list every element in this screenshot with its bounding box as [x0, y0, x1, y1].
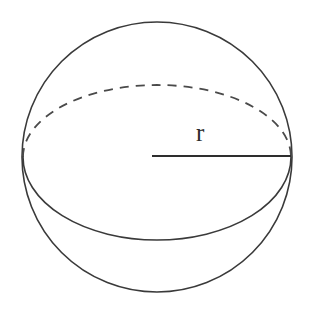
- equator-back-arc-dashed: [23, 85, 291, 157]
- radius-label: r: [196, 120, 204, 145]
- sphere-icon: [0, 0, 311, 314]
- equator-front-arc-solid: [23, 157, 291, 240]
- sphere-diagram: r: [0, 0, 311, 314]
